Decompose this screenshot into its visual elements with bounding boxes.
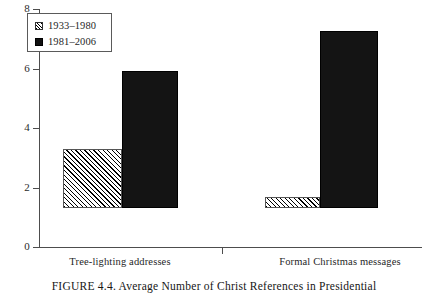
category-label-tree-lighting: Tree-lighting addresses — [50, 256, 190, 268]
chart-legend: 1933–1980 1981–2006 — [27, 13, 112, 52]
bar-tree-lighting-1933-1980[interactable] — [63, 149, 122, 208]
legend-item-1933-1980[interactable]: 1933–1980 — [35, 18, 111, 33]
y-tick-6 — [33, 69, 39, 70]
y-tick-2 — [33, 188, 39, 189]
x-axis-line — [39, 247, 422, 248]
figure-container: 8 6 4 2 0 1933–1980 1981–2006 Tree-light… — [0, 0, 428, 299]
hatch-swatch-icon — [35, 22, 43, 30]
y-tick-label-6: 6 — [4, 63, 30, 74]
y-tick-4 — [33, 128, 39, 129]
y-tick-label-0: 0 — [4, 241, 30, 252]
category-label-formal-christmas: Formal Christmas messages — [250, 256, 428, 268]
y-tick-label-2: 2 — [4, 182, 30, 193]
legend-label-1981-2006: 1981–2006 — [48, 36, 96, 47]
legend-item-1981-2006[interactable]: 1981–2006 — [35, 34, 111, 49]
x-tick-group-separator — [222, 248, 223, 254]
y-tick-label-4: 4 — [4, 122, 30, 133]
figure-caption: FIGURE 4.4. Average Number of Christ Ref… — [0, 279, 428, 293]
solid-swatch-icon — [35, 38, 43, 46]
y-tick-0 — [33, 247, 39, 248]
bar-formal-christmas-1981-2006[interactable] — [320, 31, 378, 208]
legend-label-1933-1980: 1933–1980 — [48, 20, 96, 31]
chart-plot-area: 8 6 4 2 0 1933–1980 1981–2006 Tree-light… — [0, 0, 428, 260]
bar-tree-lighting-1981-2006[interactable] — [122, 71, 178, 208]
y-tick-8 — [33, 9, 39, 10]
bar-formal-christmas-1933-1980[interactable] — [265, 197, 320, 208]
